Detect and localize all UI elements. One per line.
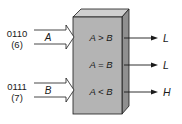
comparator-box-top — [73, 9, 129, 17]
output-value-greater: L — [163, 32, 169, 44]
input-b-binary: 0111 — [7, 81, 27, 92]
input-a-decimal: (6) — [11, 39, 23, 50]
output-label-less: A < B — [88, 86, 113, 97]
output-label-equal: A = B — [88, 59, 113, 70]
comparator-diagram: 0110 (6) A 0111 (7) B A > B A = B A < B … — [0, 0, 182, 124]
input-b-name: B — [45, 85, 52, 96]
output-label-greater: A > B — [88, 32, 113, 43]
output-value-less: H — [163, 86, 171, 98]
input-b-decimal: (7) — [11, 92, 23, 103]
input-bus-arrow-b — [34, 78, 74, 102]
comparator-box-side — [122, 9, 129, 114]
input-bus-arrow-a — [34, 25, 74, 49]
output-value-equal: L — [163, 59, 169, 71]
input-a-binary: 0110 — [7, 28, 27, 39]
input-a-name: A — [44, 32, 52, 43]
